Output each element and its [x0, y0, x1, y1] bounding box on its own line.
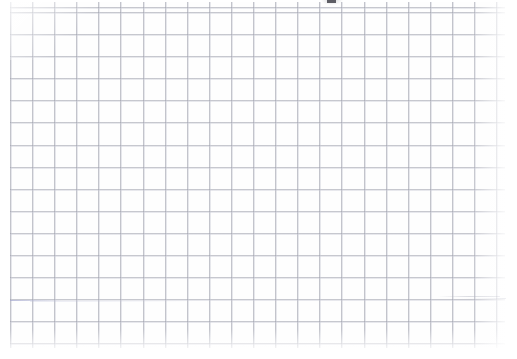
grid-fade-top-left — [0, 0, 120, 60]
grid-paper-page — [0, 0, 517, 359]
page-margin-left — [0, 0, 10, 359]
clipped-glyph-top-edge — [327, 0, 336, 3]
page-margin-bottom — [0, 348, 517, 359]
stray-stroke-right-tail — [462, 298, 506, 299]
stray-stroke-right — [438, 296, 500, 297]
page-margin-right — [505, 0, 517, 359]
page-margin-top — [0, 0, 517, 2]
stray-stroke-left-tail — [30, 301, 195, 302]
